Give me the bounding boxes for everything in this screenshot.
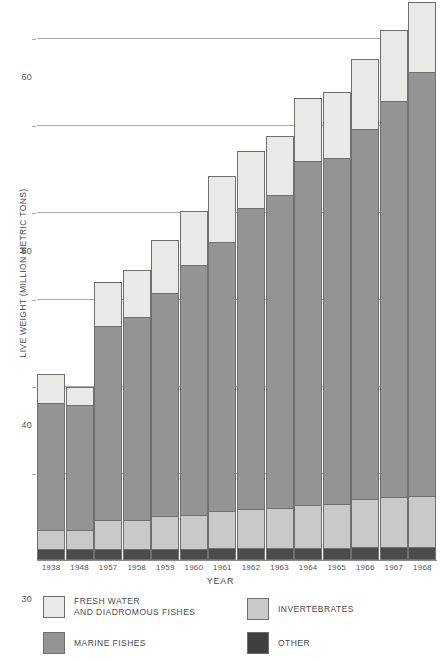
y-tick-mark-30 xyxy=(32,300,36,301)
legend-item-other[interactable]: OTHER xyxy=(247,632,310,654)
bar-1960[interactable] xyxy=(180,212,208,560)
bar-segment-invert-1962[interactable] xyxy=(237,509,265,548)
bar-segment-invert-1961[interactable] xyxy=(208,511,236,549)
x-tick-label-1967: 1967 xyxy=(380,563,408,572)
bar-segment-fresh-1965[interactable] xyxy=(323,92,351,159)
bar-1965[interactable] xyxy=(323,93,351,560)
bar-segment-fresh-1948[interactable] xyxy=(66,387,94,406)
y-tick-label-40: 40 xyxy=(21,420,32,430)
x-tick-label-1965: 1965 xyxy=(323,563,351,572)
bar-segment-invert-1959[interactable] xyxy=(151,516,179,549)
bar-segment-invert-1968[interactable] xyxy=(408,496,436,548)
bar-1958[interactable] xyxy=(123,271,151,560)
bar-segment-fresh-1958[interactable] xyxy=(123,270,151,318)
bar-1968[interactable] xyxy=(408,3,436,560)
x-tick-label-1948: 1948 xyxy=(66,563,94,572)
bar-1966[interactable] xyxy=(351,60,379,560)
bar-segment-other-1965[interactable] xyxy=(323,548,351,560)
bar-segment-fresh-1966[interactable] xyxy=(351,59,379,130)
bar-segment-invert-1966[interactable] xyxy=(351,499,379,548)
x-tick-label-1957: 1957 xyxy=(94,563,122,572)
bar-segment-marine-1958[interactable] xyxy=(123,317,151,521)
bar-segment-fresh-1959[interactable] xyxy=(151,240,179,294)
bar-segment-other-1938[interactable] xyxy=(37,549,65,560)
bar-segment-fresh-1964[interactable] xyxy=(294,98,322,162)
plot-area: 0102030405060 xyxy=(37,0,437,560)
legend-label-fresh: FRESH WATER AND DIADROMOUS FISHES xyxy=(74,596,195,618)
bar-segment-other-1962[interactable] xyxy=(237,548,265,560)
bar-1938[interactable] xyxy=(37,375,65,560)
bar-segment-invert-1948[interactable] xyxy=(66,530,94,550)
bar-segment-marine-1962[interactable] xyxy=(237,208,265,510)
bar-segment-marine-1965[interactable] xyxy=(323,158,351,505)
bar-1948[interactable] xyxy=(66,388,94,560)
bar-segment-fresh-1968[interactable] xyxy=(408,2,436,73)
legend-swatch-fresh xyxy=(43,596,65,618)
y-tick-mark-40 xyxy=(32,213,36,214)
stacked-bar-chart: LIVE WEIGHT (MILLION METRIC TONS) 010203… xyxy=(0,0,441,662)
bar-segment-invert-1967[interactable] xyxy=(380,497,408,548)
legend-item-invert[interactable]: INVERTEBRATES xyxy=(247,598,354,620)
bar-segment-invert-1958[interactable] xyxy=(123,520,151,550)
y-tick-label-50: 50 xyxy=(21,246,32,256)
bar-segment-other-1961[interactable] xyxy=(208,548,236,560)
bar-segment-fresh-1961[interactable] xyxy=(208,176,236,243)
bar-segment-marine-1966[interactable] xyxy=(351,129,379,500)
legend-label-other: OTHER xyxy=(278,638,310,649)
x-tick-label-1962: 1962 xyxy=(237,563,265,572)
bar-segment-marine-1967[interactable] xyxy=(380,101,408,499)
y-tick-label-30: 30 xyxy=(21,594,32,604)
chart-legend: FRESH WATER AND DIADROMOUS FISHESINVERTE… xyxy=(43,596,441,658)
bar-segment-fresh-1967[interactable] xyxy=(380,30,408,101)
bar-segment-marine-1960[interactable] xyxy=(180,265,208,516)
x-tick-label-1966: 1966 xyxy=(351,563,379,572)
bar-segment-other-1964[interactable] xyxy=(294,548,322,560)
y-tick-mark-50 xyxy=(32,126,36,127)
legend-item-marine[interactable]: MARINE FISHES xyxy=(43,632,146,654)
bar-segment-other-1948[interactable] xyxy=(66,549,94,560)
bar-1963[interactable] xyxy=(266,137,294,560)
bar-segment-fresh-1960[interactable] xyxy=(180,211,208,266)
bar-segment-other-1966[interactable] xyxy=(351,547,379,560)
bar-1959[interactable] xyxy=(151,241,179,560)
legend-swatch-other xyxy=(247,632,269,654)
bar-segment-invert-1965[interactable] xyxy=(323,504,351,549)
bar-1967[interactable] xyxy=(380,31,408,560)
bar-segment-other-1968[interactable] xyxy=(408,547,436,560)
y-axis-title: LIVE WEIGHT (MILLION METRIC TONS) xyxy=(18,158,28,388)
x-tick-label-1938: 1938 xyxy=(37,563,65,572)
bar-segment-invert-1964[interactable] xyxy=(294,505,322,549)
bar-segment-marine-1948[interactable] xyxy=(66,405,94,531)
legend-item-fresh[interactable]: FRESH WATER AND DIADROMOUS FISHES xyxy=(43,596,195,618)
bar-segment-invert-1938[interactable] xyxy=(37,530,65,549)
bar-segment-marine-1961[interactable] xyxy=(208,242,236,512)
bar-segment-invert-1960[interactable] xyxy=(180,515,208,550)
bar-segment-marine-1957[interactable] xyxy=(94,326,122,521)
y-tick-label-60: 60 xyxy=(21,72,32,82)
bar-1957[interactable] xyxy=(94,283,122,560)
x-axis-title: YEAR xyxy=(0,576,441,586)
bar-segment-marine-1959[interactable] xyxy=(151,293,179,518)
bar-segment-fresh-1963[interactable] xyxy=(266,136,294,196)
bar-segment-marine-1968[interactable] xyxy=(408,72,436,497)
bar-segment-invert-1963[interactable] xyxy=(266,508,294,549)
bar-segment-fresh-1962[interactable] xyxy=(237,151,265,209)
bar-segment-marine-1963[interactable] xyxy=(266,195,294,508)
bar-1961[interactable] xyxy=(208,177,236,560)
bar-1964[interactable] xyxy=(294,99,322,560)
bar-segment-marine-1964[interactable] xyxy=(294,161,322,507)
bar-segment-other-1967[interactable] xyxy=(380,547,408,560)
bar-1962[interactable] xyxy=(237,152,265,560)
bar-segment-marine-1938[interactable] xyxy=(37,403,65,531)
y-tick-mark-60 xyxy=(32,39,36,40)
x-tick-label-1961: 1961 xyxy=(208,563,236,572)
bar-segment-other-1959[interactable] xyxy=(151,549,179,560)
bar-segment-other-1960[interactable] xyxy=(180,549,208,560)
x-tick-label-1964: 1964 xyxy=(294,563,322,572)
bar-segment-other-1958[interactable] xyxy=(123,549,151,560)
bar-segment-invert-1957[interactable] xyxy=(94,520,122,550)
bar-segment-other-1963[interactable] xyxy=(266,548,294,560)
bar-segment-other-1957[interactable] xyxy=(94,549,122,560)
bar-segment-fresh-1957[interactable] xyxy=(94,282,122,327)
bar-segment-fresh-1938[interactable] xyxy=(37,374,65,405)
